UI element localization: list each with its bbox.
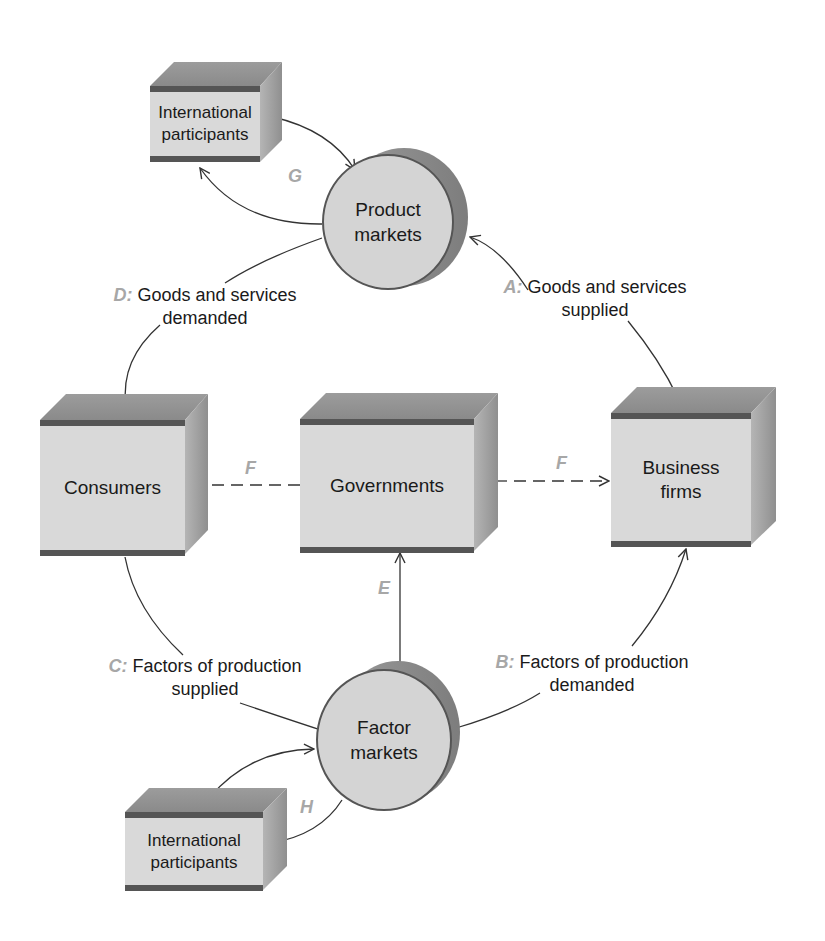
flow-label-h: H xyxy=(300,797,313,818)
flow-label-e: E xyxy=(378,578,390,599)
governments: Governments xyxy=(300,393,498,556)
consumers: Consumers xyxy=(40,394,208,558)
circular-flow-diagram: Internationalparticipants Productmarkets… xyxy=(0,0,825,941)
flow-label-d: D: Goods and services demanded xyxy=(80,284,330,330)
flow-label-b: B: Factors of production demanded xyxy=(462,651,722,697)
arrow-c-top xyxy=(125,557,183,655)
arrow-g-out xyxy=(200,168,322,224)
international-participants-bottom: Internationalparticipants xyxy=(125,788,287,893)
arrow-b-top xyxy=(632,549,686,646)
arrow-d xyxy=(125,325,160,405)
arrow-b xyxy=(456,693,540,728)
international-participants-top: Internationalparticipants xyxy=(150,62,282,164)
flow-label-f-left: F xyxy=(245,458,256,479)
product-markets: Productmarkets xyxy=(322,148,472,290)
arrow-d-top xyxy=(225,238,322,283)
business-firms: Businessfirms xyxy=(611,387,776,550)
flow-label-c: C: Factors of production supplied xyxy=(80,655,330,701)
flow-label-f-right: F xyxy=(556,453,567,474)
flow-label-g: G xyxy=(288,166,302,187)
flow-label-a: A: Goods and services supplied xyxy=(480,276,710,322)
factor-markets: Factormarkets xyxy=(316,661,464,813)
